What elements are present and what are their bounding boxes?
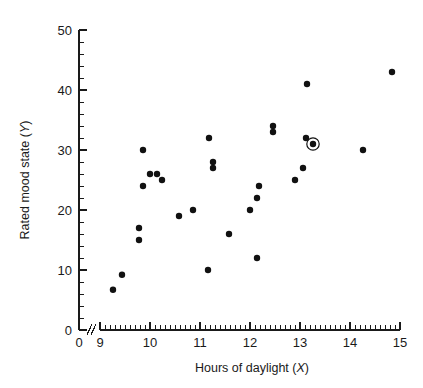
data-point xyxy=(190,207,196,213)
y-axis-tick-label: 40 xyxy=(58,83,72,98)
data-point xyxy=(389,69,395,75)
data-point xyxy=(119,272,125,278)
x-axis-tick-label: 13 xyxy=(293,335,307,350)
data-point xyxy=(270,123,276,129)
data-point xyxy=(176,213,182,219)
y-axis-tick-label: 10 xyxy=(58,263,72,278)
data-point-highlighted xyxy=(310,141,316,147)
x-axis-title-paren: ) xyxy=(305,361,309,375)
data-point xyxy=(136,225,142,231)
y-axis: 01020304050 xyxy=(58,23,87,338)
axis-titles-layer: Hours of daylight (X)Rated mood state (Y… xyxy=(18,121,309,375)
x-axis-title-text: Hours of daylight ( xyxy=(195,361,297,375)
data-point xyxy=(256,183,262,189)
data-point xyxy=(206,135,212,141)
x-axis-tick-label: 14 xyxy=(343,335,357,350)
data-point xyxy=(247,207,253,213)
data-point xyxy=(154,171,160,177)
y-axis-tick-label: 50 xyxy=(58,23,72,38)
y-axis-title-paren: ) xyxy=(18,121,32,125)
data-points-layer xyxy=(110,69,395,293)
data-point xyxy=(205,267,211,273)
data-point xyxy=(254,195,260,201)
y-axis-title-text: Rated mood state ( xyxy=(18,132,32,239)
data-point xyxy=(300,165,306,171)
data-point xyxy=(270,129,276,135)
x-axis-tick-label: 11 xyxy=(193,335,207,350)
data-point xyxy=(292,177,298,183)
data-point xyxy=(254,255,260,261)
data-point xyxy=(110,287,116,293)
data-point xyxy=(226,231,232,237)
data-point xyxy=(210,165,216,171)
scatter-plot-figure: 01020304050 91011121314150 Hours of dayl… xyxy=(0,0,423,388)
data-point xyxy=(159,177,165,183)
x-axis-tick-label: 10 xyxy=(143,335,157,350)
data-point xyxy=(360,147,366,153)
data-point xyxy=(147,171,153,177)
x-axis-title: Hours of daylight (X) xyxy=(195,361,309,375)
x-axis-tick-label: 15 xyxy=(393,335,407,350)
x-axis-tick-label: 9 xyxy=(96,335,103,350)
data-point xyxy=(210,159,216,165)
y-axis-tick-label: 30 xyxy=(58,143,72,158)
x-axis: 91011121314150 xyxy=(75,322,407,350)
y-axis-tick-label: 20 xyxy=(58,203,72,218)
scatter-plot-canvas: 01020304050 91011121314150 Hours of dayl… xyxy=(0,0,423,388)
y-axis-tick-label: 0 xyxy=(65,323,72,338)
data-point xyxy=(140,147,146,153)
data-point xyxy=(304,81,310,87)
x-axis-origin-label: 0 xyxy=(75,335,82,350)
y-axis-title: Rated mood state (Y) xyxy=(18,121,32,240)
data-point xyxy=(140,183,146,189)
x-axis-tick-label: 12 xyxy=(243,335,257,350)
data-point xyxy=(136,237,142,243)
